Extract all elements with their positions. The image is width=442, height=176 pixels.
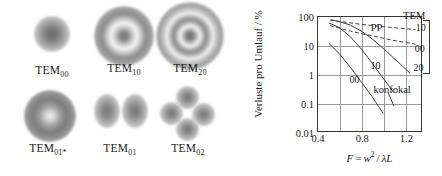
- x-axis-label-num-exp: 2: [371, 150, 375, 159]
- x-axis-label-slash: /: [377, 152, 380, 164]
- tem-mode-gallery: TEM00 TEM10 TEM20: [0, 0, 228, 176]
- mode-cell-tem10: TEM10: [86, 0, 162, 88]
- mode-cell-tem01: TEM01: [82, 90, 158, 176]
- curve-layer: [318, 17, 421, 131]
- one-ring-plus-core-icon: [86, 0, 162, 62]
- x-axis-label: F=w2/λL: [317, 150, 422, 164]
- x-axis-label-eq: =: [355, 152, 361, 164]
- mode-label-tem01: TEM01: [82, 142, 158, 157]
- tem-legend-bracket: [423, 20, 430, 74]
- x-tick-label: 1.2: [400, 133, 413, 144]
- x-tick-label: 0.4: [311, 133, 324, 144]
- y-tick-label: 10: [304, 41, 315, 52]
- annotation-pp: PP: [371, 22, 383, 33]
- x-tick-label: 0.8: [356, 133, 369, 144]
- annotation-tem: TEM: [403, 9, 425, 20]
- mode-cell-tem01star: TEM01*: [10, 88, 86, 176]
- gaussian-spot-icon: [14, 6, 90, 68]
- mode-label-tem01star: TEM01*: [10, 142, 86, 157]
- x-axis-label-num: w: [363, 152, 370, 164]
- annotation-10: 10: [370, 60, 380, 71]
- mode-cell-tem02: TEM02: [150, 86, 226, 174]
- y-tick-label: 100: [298, 12, 314, 23]
- plot-area: 1001010.10.01 0.40.81.2 PPTEM1000201000k…: [317, 16, 422, 132]
- annotation-konfokal: konfokal: [373, 83, 410, 94]
- annotation-00: 00: [349, 73, 359, 84]
- annotation-leader-line: [388, 93, 393, 106]
- doughnut-icon: [10, 88, 86, 150]
- y-tick-label: 1: [309, 70, 314, 81]
- y-tick-label: 0.1: [301, 99, 314, 110]
- mode-cell-tem20: TEM20: [152, 0, 228, 86]
- y-axis-label: Verluste pro Umlauf / %: [252, 0, 264, 129]
- x-axis-label-lhs: F: [347, 152, 354, 164]
- loss-chart: Verluste pro Umlauf / % 1001010.10.01 0.…: [228, 0, 442, 176]
- two-rings-plus-core-icon: [152, 0, 228, 60]
- mode-cell-tem00: TEM00: [14, 6, 90, 94]
- mode-label-tem20: TEM20: [152, 62, 228, 77]
- four-lobes-icon: [150, 86, 226, 148]
- mode-label-tem02: TEM02: [150, 142, 226, 157]
- mode-label-tem00: TEM00: [14, 64, 90, 79]
- mode-label-tem10: TEM10: [86, 62, 162, 77]
- figure-root: TEM00 TEM10 TEM20: [0, 0, 442, 176]
- x-axis-label-den: λL: [382, 152, 393, 164]
